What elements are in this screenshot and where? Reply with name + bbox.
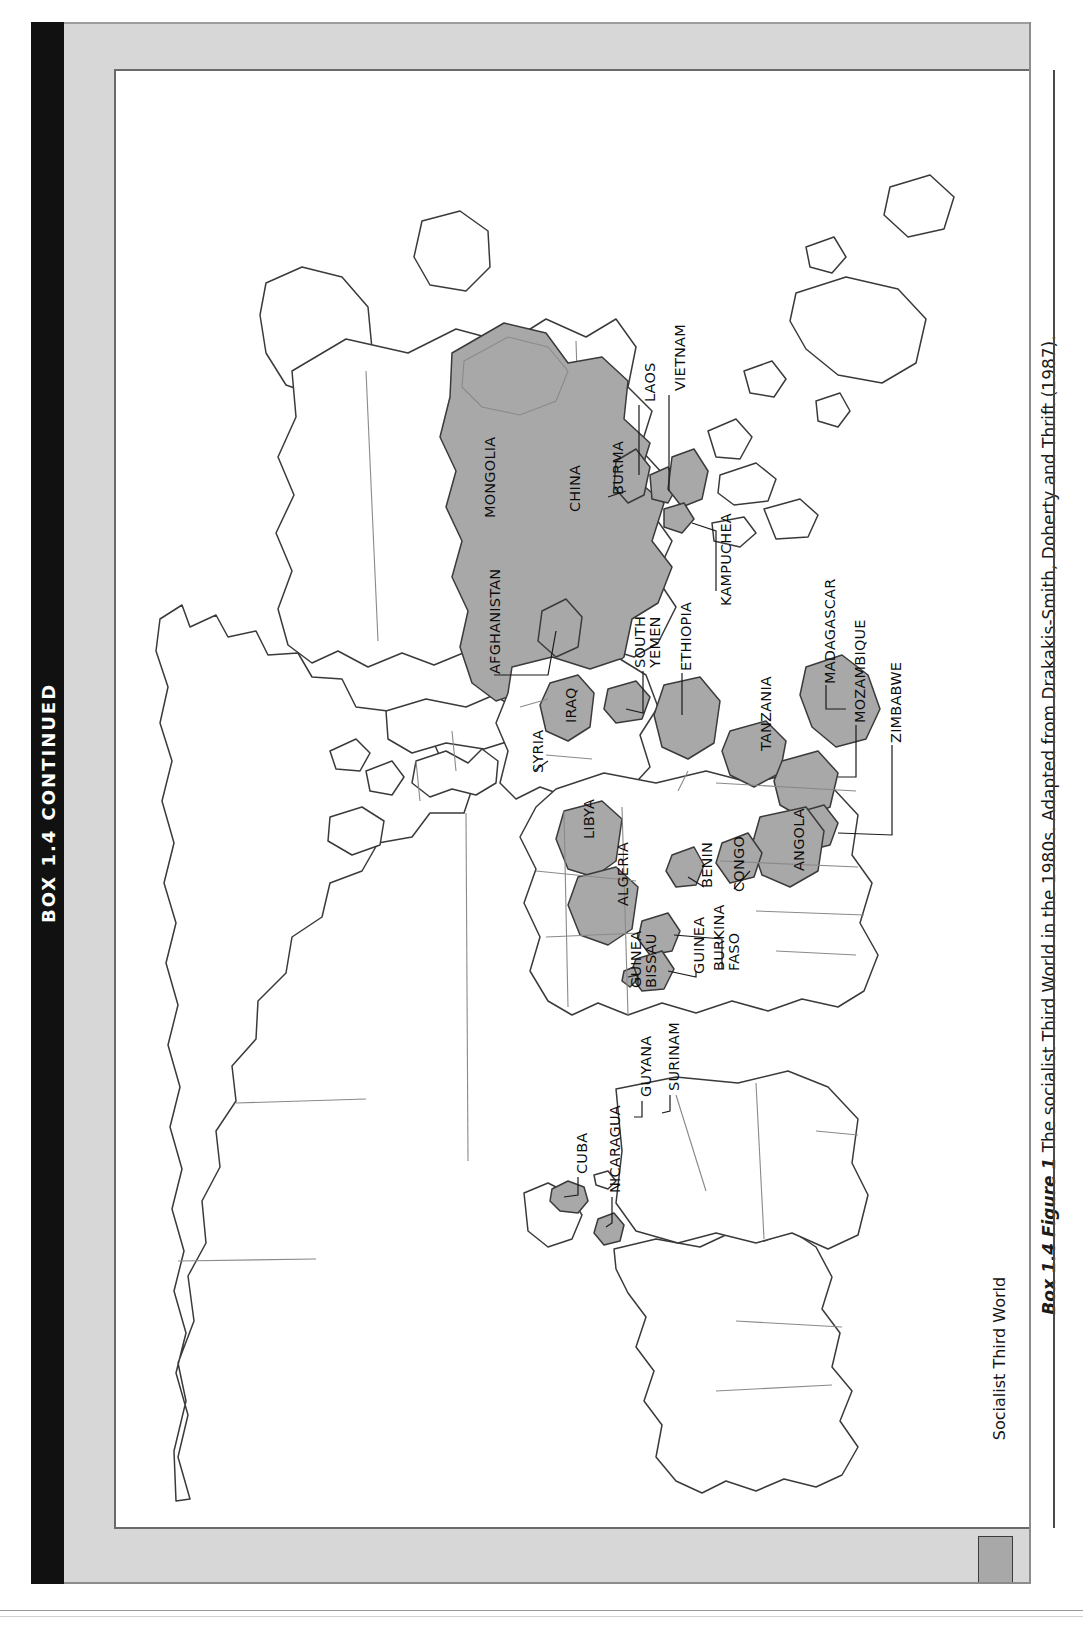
continent-africa — [520, 655, 880, 1015]
country-mozambique — [774, 751, 838, 819]
map-label-guinea: GUINEA — [692, 917, 707, 974]
legend-swatch-socialist — [978, 1536, 1013, 1584]
map-label-south-yemen-line2: YEMEN — [648, 616, 663, 668]
scan-rule-top — [0, 1610, 1083, 1611]
map-label-angola: ANGOLA — [792, 808, 807, 871]
map-label-kampuchea: KAMPUCHEA — [719, 513, 734, 606]
country-china — [440, 323, 672, 733]
box-panel: .coast{fill:#ffffff;stroke:#3a3a3a;strok… — [31, 22, 1031, 1584]
country-burma — [614, 449, 650, 503]
map-label-iraq: IRAQ — [564, 687, 579, 723]
label-leader-lines — [494, 395, 892, 1227]
country-mongolia-border — [462, 337, 568, 415]
map-label-burkina-faso: BURKINA FASO — [712, 904, 742, 971]
figure-caption: Box 1.4 Figure 1 The socialist Third Wor… — [1039, 335, 1059, 1314]
continent-south-america — [614, 1071, 868, 1493]
map-label-cuba: CUBA — [575, 1133, 590, 1174]
map-label-south-yemen-line1: SOUTH — [633, 616, 648, 668]
figure-caption-column: Box 1.4 Figure 1 The socialist Third Wor… — [1031, 44, 1067, 1606]
map-label-surinam: SURINAM — [667, 1022, 682, 1091]
world-map-svg: .coast{fill:#ffffff;stroke:#3a3a3a;strok… — [116, 71, 1029, 1527]
country-ethiopia — [654, 677, 720, 759]
country-angola — [752, 807, 824, 887]
country-kampuchea — [664, 503, 694, 533]
map-label-south-yemen: SOUTH YEMEN — [633, 616, 663, 668]
map-label-mozambique: MOZAMBIQUE — [853, 619, 868, 723]
continent-europe — [328, 695, 520, 855]
country-surinam — [646, 1093, 688, 1133]
country-zimbabwe — [792, 805, 838, 851]
country-vietnam — [668, 449, 708, 507]
box-title: BOX 1.4 CONTINUED — [37, 683, 58, 923]
box-title-strip: BOX 1.4 CONTINUED — [31, 22, 64, 1584]
country-south-yemen — [604, 681, 650, 723]
map-label-laos: LAOS — [643, 363, 658, 403]
map-label-syria: SYRIA — [531, 730, 546, 773]
country-guinea — [630, 951, 674, 991]
map-label-guinea-bissau-line1: GUINEA — [629, 931, 644, 988]
country-afghanistan — [538, 599, 582, 657]
map-label-ethiopia: ETHIOPIA — [679, 602, 694, 671]
figure-caption-body: The socialist Third World in the 1980s. … — [1039, 335, 1059, 1157]
map-label-tanzania: TANZANIA — [759, 676, 774, 751]
figure-caption-lead: Box 1.4 Figure 1 — [1039, 1158, 1059, 1315]
legend-label-socialist: Socialist Third World — [990, 1264, 1009, 1454]
region-middle-east — [496, 657, 658, 799]
figure-plate: .coast{fill:#ffffff;stroke:#3a3a3a;strok… — [114, 69, 1031, 1529]
country-madagascar — [800, 655, 880, 747]
map-label-madagascar: MADAGASCAR — [823, 579, 838, 684]
country-laos — [650, 467, 678, 503]
region-ussr — [276, 319, 676, 667]
scanned-page: .coast{fill:#ffffff;stroke:#3a3a3a;strok… — [0, 0, 1083, 1638]
map-label-burkina-faso-line1: BURKINA — [712, 904, 727, 971]
map-label-mongolia: MONGOLIA — [483, 437, 498, 518]
map-label-china: CHINA — [568, 465, 583, 512]
region-central-america — [524, 1171, 624, 1247]
map-label-guinea-bissau-line2: BISSAU — [644, 931, 659, 988]
country-cuba — [550, 1181, 588, 1213]
country-burkina-faso — [638, 913, 680, 955]
country-guinea-bissau — [622, 967, 638, 987]
country-tanzania — [722, 721, 786, 787]
map-label-guyana: GUYANA — [639, 1036, 654, 1097]
map-label-benin: BENIN — [700, 842, 715, 888]
map-legend: Socialist Third World — [964, 1221, 1024, 1591]
country-nicaragua — [594, 1213, 624, 1245]
world-map: .coast{fill:#ffffff;stroke:#3a3a3a;strok… — [116, 71, 1029, 1527]
map-label-guinea-bissau: GUINEA BISSAU — [629, 931, 659, 988]
country-algeria — [568, 867, 638, 945]
scan-rule-bottom — [0, 1616, 1083, 1617]
map-label-vietnam: VIETNAM — [673, 324, 688, 391]
map-label-libya: LIBYA — [582, 799, 597, 839]
region-socialist-asia — [440, 323, 850, 733]
map-label-congo: CONGO — [732, 836, 747, 892]
continent-australia — [790, 175, 954, 383]
map-label-burkina-faso-line2: FASO — [727, 904, 742, 971]
country-congo — [716, 833, 762, 883]
map-label-afghanistan: AFGHANISTAN — [488, 569, 503, 674]
country-benin — [666, 847, 704, 887]
map-label-zimbabwe: ZIMBABWE — [889, 662, 904, 743]
map-label-burma: BURMA — [611, 441, 626, 495]
map-label-nicaragua: NICARAGUA — [608, 1105, 623, 1193]
continent-north-america — [156, 211, 490, 1501]
country-iraq — [540, 675, 594, 741]
country-libya — [556, 801, 622, 877]
map-label-algeria: ALGERIA — [616, 842, 631, 906]
caption-rule — [1053, 70, 1055, 1528]
